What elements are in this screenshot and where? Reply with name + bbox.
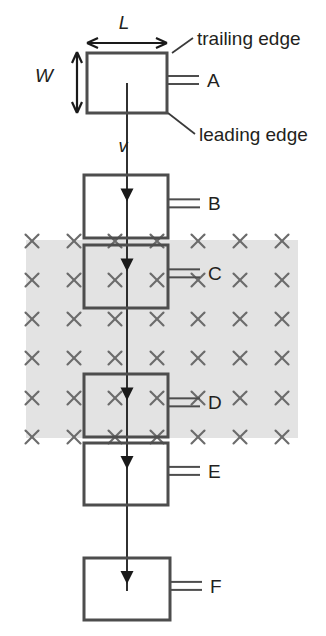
width-dimension-arrow (72, 52, 82, 113)
velocity-label: v (119, 136, 129, 156)
loop-label-E: E (208, 461, 221, 482)
loop-label-F: F (210, 576, 222, 597)
conducting-loop-E (84, 443, 200, 505)
trailing-edge-leader-line (172, 38, 193, 53)
magnetic-field-region (26, 235, 299, 444)
conducting-loop-B (84, 175, 200, 238)
trailing-edge-label: trailing edge (197, 28, 301, 49)
length-dimension-label: L (119, 12, 130, 33)
leading-edge-leader-line (168, 113, 195, 134)
length-dimension-arrow (87, 38, 167, 48)
leading-edge-label: leading edge (199, 124, 308, 145)
field-region-background (26, 240, 298, 438)
velocity-arrowhead (121, 188, 134, 201)
loop-label-D: D (208, 392, 222, 413)
velocity-arrowhead (121, 456, 134, 469)
loop-rectangle (84, 443, 168, 505)
velocity-arrowhead (121, 571, 134, 584)
physics-diagram-figure: L W v trailing edgeleading edge ABCDEF (0, 0, 326, 636)
loop-rectangle (84, 175, 168, 238)
width-dimension-label: W (35, 65, 55, 86)
dimension-markers: L W (35, 12, 167, 113)
conducting-loop-A (87, 53, 199, 113)
edge-annotations-group: trailing edgeleading edge (168, 28, 308, 145)
conducting-loop-F (84, 558, 202, 620)
loop-label-B: B (208, 193, 221, 214)
loop-label-A: A (207, 70, 220, 91)
diagram-canvas: L W v trailing edgeleading edge ABCDEF (0, 0, 326, 636)
loop-label-C: C (208, 263, 222, 284)
